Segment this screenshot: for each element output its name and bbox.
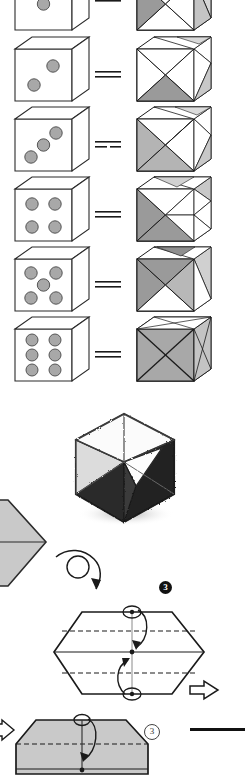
polyhedron-5 — [137, 247, 211, 311]
step-3-filled: 3 — [159, 581, 172, 594]
cube-sketch-svg — [62, 406, 187, 534]
dice-row-5 — [15, 247, 211, 311]
die-face-1 — [15, 0, 89, 30]
dice-rows-svg — [0, 0, 245, 420]
hexagon-outline — [54, 612, 204, 694]
hollow-arrow-tip-cropped — [0, 722, 14, 744]
trapezoid-fold-diagram — [14, 714, 154, 776]
dice-row-1 — [15, 0, 211, 30]
die-face-6 — [15, 317, 89, 381]
horizontal-rule — [190, 728, 245, 731]
equals-sign-4 — [95, 211, 121, 218]
die-face-4 — [15, 177, 89, 241]
polyhedron-6 — [137, 317, 211, 381]
trapezoid-svg — [14, 714, 154, 776]
equals-sign-2 — [95, 71, 121, 78]
equals-sign-3 — [95, 141, 121, 148]
die-face-3 — [15, 107, 89, 171]
hexagon-svg — [52, 604, 232, 706]
equals-sign-1 — [95, 0, 121, 2]
origami-diamond-cropped — [0, 496, 50, 592]
polyhedron-2 — [137, 37, 211, 101]
dice-row-6 — [15, 317, 211, 381]
rotate-arrow-svg — [54, 545, 110, 600]
dice-row-2 — [15, 37, 211, 101]
die-face-5 — [15, 247, 89, 311]
diamond-svg — [0, 496, 50, 592]
polyhedron-3 — [137, 107, 211, 171]
polyhedron-4 — [137, 177, 211, 241]
hollow-right-arrow — [190, 681, 218, 699]
dice-row-3 — [15, 107, 211, 171]
arrow-tip-svg — [0, 722, 14, 744]
dice-polyhedron-table — [0, 0, 245, 420]
equals-sign-5 — [95, 281, 121, 288]
step-3-outline: 3 — [144, 724, 160, 740]
die-face-2 — [15, 37, 89, 101]
rotate-loop-arrow — [54, 545, 110, 600]
dice-row-4 — [15, 177, 211, 241]
hexagon-fold-diagram — [52, 604, 232, 706]
equals-sign-6 — [95, 351, 121, 358]
polyhedron-1 — [137, 0, 211, 30]
shaded-cube-sketch — [62, 406, 187, 534]
